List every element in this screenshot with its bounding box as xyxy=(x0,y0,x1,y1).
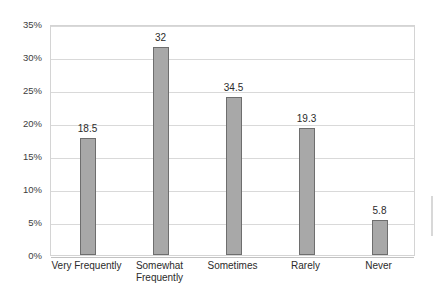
y-axis: 0%5%10%15%20%25%30%35% xyxy=(0,0,46,301)
x-category-label: Sometimes xyxy=(196,260,269,272)
gridline xyxy=(51,257,414,258)
x-category-line: Somewhat xyxy=(123,260,196,272)
bar[interactable] xyxy=(80,138,96,255)
x-category-line: Never xyxy=(342,260,415,272)
x-category-line: Rarely xyxy=(269,260,342,272)
x-category-label: Never xyxy=(342,260,415,272)
bar-chart: 0%5%10%15%20%25%30%35% 18.53234.519.35.8… xyxy=(0,0,435,301)
bar-value-label: 19.3 xyxy=(297,113,316,124)
bar[interactable] xyxy=(153,47,169,255)
x-category-label: Very Frequently xyxy=(50,260,123,272)
y-tick-label: 0% xyxy=(0,251,42,261)
x-category-label: SomewhatFrequently xyxy=(123,260,196,284)
y-tick-label: 30% xyxy=(0,53,42,63)
bar-slot: 5.8 xyxy=(343,26,416,255)
x-axis: Very FrequentlySomewhatFrequentlySometim… xyxy=(50,260,415,300)
y-tick-label: 20% xyxy=(0,119,42,129)
edge-artifact xyxy=(431,196,433,236)
plot-area: 18.53234.519.35.8 xyxy=(50,25,415,256)
bar-slot: 32 xyxy=(124,26,197,255)
y-tick-label: 15% xyxy=(0,152,42,162)
bars-layer: 18.53234.519.35.8 xyxy=(51,26,414,255)
bar-slot: 18.5 xyxy=(51,26,124,255)
bar[interactable] xyxy=(372,220,388,255)
x-category-line: Very Frequently xyxy=(50,260,123,272)
x-category-line: Sometimes xyxy=(196,260,269,272)
y-tick-label: 25% xyxy=(0,86,42,96)
bar-value-label: 5.8 xyxy=(373,205,387,216)
bar[interactable] xyxy=(299,128,315,255)
bar[interactable] xyxy=(226,97,242,255)
bar-value-label: 34.5 xyxy=(224,82,243,93)
x-category-label: Rarely xyxy=(269,260,342,272)
bar-value-label: 32 xyxy=(155,32,166,43)
y-tick-label: 35% xyxy=(0,20,42,30)
bar-value-label: 18.5 xyxy=(78,123,97,134)
y-tick-label: 5% xyxy=(0,218,42,228)
y-tick-label: 10% xyxy=(0,185,42,195)
x-category-line: Frequently xyxy=(123,272,196,284)
bar-slot: 19.3 xyxy=(270,26,343,255)
bar-slot: 34.5 xyxy=(197,26,270,255)
